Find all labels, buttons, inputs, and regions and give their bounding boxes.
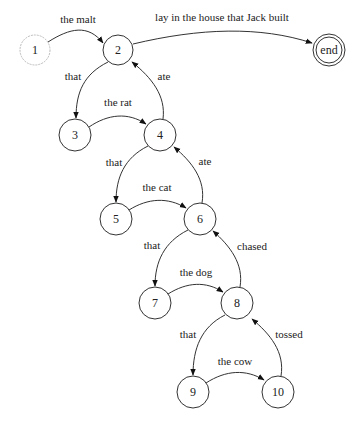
node-label: 8: [234, 296, 240, 310]
edge-9-10: [206, 372, 264, 383]
edge-label: chased: [237, 240, 267, 252]
edge-7-8: [168, 284, 223, 294]
edge-label: the cat: [142, 181, 171, 193]
node-3: 3: [59, 119, 91, 151]
node-label: 7: [152, 296, 158, 310]
node-label: 6: [197, 212, 203, 226]
node-9: 9: [177, 376, 209, 408]
edge-labels: the malt lay in the house that Jack buil…: [60, 11, 303, 367]
automaton-diagram: the malt lay in the house that Jack buil…: [0, 0, 359, 434]
node-end: end: [313, 34, 345, 66]
node-5: 5: [100, 203, 132, 235]
edge-label: that: [144, 239, 161, 251]
edge-label: the malt: [60, 13, 96, 25]
edge-label: that: [180, 328, 197, 340]
node-label: 1: [32, 43, 38, 57]
node-7: 7: [139, 287, 171, 319]
node-4: 4: [144, 119, 176, 151]
edge-label: the cow: [218, 355, 253, 367]
edge-label: the dog: [180, 266, 213, 278]
node-8: 8: [221, 287, 253, 319]
node-2: 2: [103, 35, 133, 65]
node-label: 2: [115, 43, 121, 57]
node-10: 10: [262, 376, 294, 408]
edge-2-end: [133, 31, 312, 44]
edge-label: lay in the house that Jack built: [155, 11, 289, 23]
edge-label: that: [106, 156, 123, 168]
edge-label: ate: [158, 70, 171, 82]
node-label: end: [320, 43, 337, 57]
edge-1-2: [48, 30, 103, 43]
edge-label: tossed: [275, 328, 303, 340]
node-label: 10: [272, 385, 284, 399]
edge-label: that: [65, 70, 82, 82]
node-label: 4: [157, 128, 163, 142]
edge-label: ate: [199, 155, 212, 167]
node-6: 6: [184, 203, 216, 235]
node-1: 1: [20, 35, 50, 65]
nodes: 1 2 end 3 4 5 6 7: [20, 34, 345, 408]
edge-5-6: [129, 200, 186, 210]
edge-3-4: [89, 116, 146, 127]
node-label: 5: [113, 212, 119, 226]
edge-4-5: [116, 146, 148, 202]
edge-label: the rat: [104, 96, 132, 108]
node-label: 9: [190, 385, 196, 399]
node-label: 3: [72, 128, 78, 142]
